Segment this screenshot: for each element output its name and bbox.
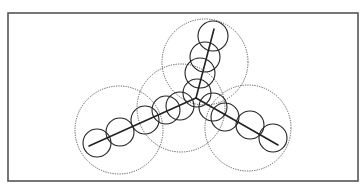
small-solid-circles [83,21,287,157]
skeleton-line-right-arm [196,98,278,145]
large-dotted-circle-left [75,86,163,174]
small-circle [131,106,159,134]
skeleton-lines [89,29,278,146]
skeleton-circle-diagram [0,0,364,185]
small-circle [259,124,287,152]
skeleton-line-left-arm [89,98,196,146]
small-circle [211,103,239,131]
large-dotted-circle-center [137,64,225,152]
small-circle [190,42,220,72]
figure-frame [8,13,358,181]
